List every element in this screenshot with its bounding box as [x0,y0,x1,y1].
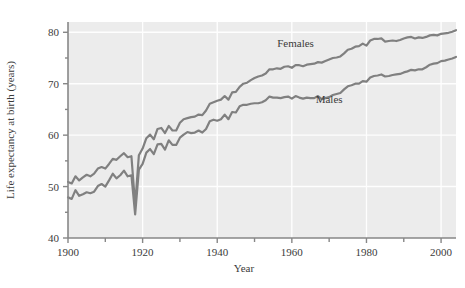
plot-background [68,22,456,238]
y-tick-label: 60 [48,129,60,141]
life-expectancy-line-chart: 4050607080 190019201940196019802000 Fema… [0,0,465,288]
x-axis-tick-labels: 190019201940196019802000 [57,246,453,258]
chart-container: 4050607080 190019201940196019802000 Fema… [0,0,465,288]
x-tick-label: 1960 [281,246,304,258]
y-tick-label: 40 [48,232,60,244]
x-tick-label: 1940 [206,246,229,258]
y-tick-label: 50 [48,181,60,193]
y-axis-title: Life expectancy at birth (years) [4,61,17,199]
series-annotation-females: Females [277,37,314,49]
x-tick-label: 1980 [355,246,378,258]
x-tick-label: 1920 [132,246,155,258]
x-axis-title: Year [234,262,255,274]
y-tick-label: 70 [48,78,60,90]
y-tick-label: 80 [48,26,60,38]
x-tick-label: 1900 [57,246,80,258]
x-tick-label: 2000 [430,246,453,258]
y-axis-tick-labels: 4050607080 [48,26,60,244]
series-annotation-males: Males [316,93,343,105]
